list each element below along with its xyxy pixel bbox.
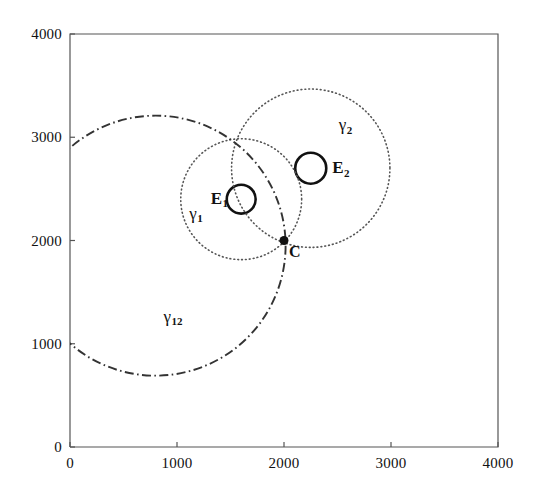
curve-gamma12: [26, 116, 286, 376]
curves-layer: [26, 89, 390, 376]
curve-E1: [227, 185, 256, 214]
point-marker-C: [280, 236, 289, 245]
plot-canvas: [0, 0, 545, 502]
label-gamma1: γ1: [189, 205, 203, 224]
y-tick-label: 4000: [31, 27, 62, 42]
label-gamma2-subscript: 2: [347, 124, 353, 136]
label-gamma1-text: γ: [189, 204, 197, 223]
label-point-C-text: C: [289, 243, 301, 260]
label-E2: E2: [332, 159, 349, 178]
y-tick-label: 2000: [31, 233, 62, 248]
x-tick-label: 1000: [162, 456, 193, 471]
label-E2-text: E: [332, 158, 343, 177]
label-gamma12: γ12: [164, 308, 183, 327]
figure-root: 01000200030004000 01000200030004000 E1E2…: [0, 0, 545, 502]
label-gamma1-subscript: 1: [197, 212, 203, 224]
curve-E2: [295, 153, 326, 184]
y-tick-label: 3000: [31, 130, 62, 145]
label-E1-text: E: [211, 189, 222, 208]
label-gamma12-text: γ: [164, 307, 172, 326]
x-tick-label: 4000: [483, 456, 514, 471]
y-tick-label: 1000: [31, 336, 62, 351]
x-tick-label: 2000: [269, 456, 300, 471]
label-gamma12-subscript: 12: [172, 315, 183, 327]
curve-gamma2: [232, 89, 390, 247]
points-layer: [280, 236, 289, 245]
label-gamma2-text: γ: [339, 115, 347, 134]
label-point-C: C: [289, 244, 301, 260]
label-gamma2: γ2: [339, 116, 353, 135]
y-tick-label: 0: [54, 440, 62, 455]
label-E1-subscript: 1: [223, 197, 229, 209]
label-E1: E1: [211, 190, 228, 209]
x-tick-label: 0: [66, 456, 74, 471]
x-tick-label: 3000: [376, 456, 407, 471]
label-E2-subscript: 2: [344, 167, 350, 179]
